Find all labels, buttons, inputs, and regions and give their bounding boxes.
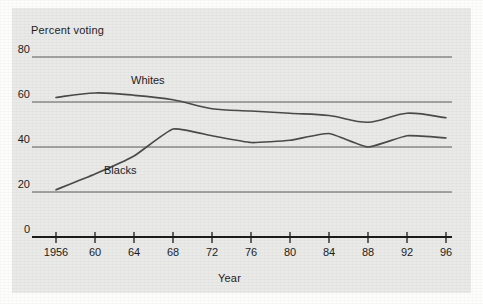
- x-tick-label-76: 76: [245, 246, 257, 258]
- series-line-blacks: [56, 129, 446, 190]
- x-tick-label-84: 84: [323, 246, 335, 258]
- x-tick-label-64: 64: [128, 246, 140, 258]
- x-tick-label-68: 68: [167, 246, 179, 258]
- line-chart-plot: [0, 0, 483, 304]
- x-tick-label-60: 60: [89, 246, 101, 258]
- series-label-blacks: Blacks: [104, 164, 136, 176]
- x-tick-label-72: 72: [206, 246, 218, 258]
- chart-page: Percent voting Year 020406080 1956606468…: [0, 0, 483, 304]
- series-line-whites: [56, 93, 446, 122]
- x-tick-label-80: 80: [284, 246, 296, 258]
- y-axis-title: Percent voting: [31, 24, 104, 36]
- x-tick-label-96: 96: [440, 246, 452, 258]
- x-tick-label-92: 92: [401, 246, 413, 258]
- gridlines-group: [32, 57, 452, 192]
- y-tick-label-80: 80: [8, 43, 30, 55]
- y-tick-label-20: 20: [8, 178, 30, 190]
- x-tick-label-1956: 1956: [44, 246, 68, 258]
- x-axis-title: Year: [218, 272, 241, 284]
- x-tick-label-88: 88: [362, 246, 374, 258]
- y-tick-label-40: 40: [8, 133, 30, 145]
- y-tick-label-60: 60: [8, 88, 30, 100]
- series-label-whites: Whites: [131, 74, 165, 86]
- y-tick-label-0: 0: [8, 223, 30, 235]
